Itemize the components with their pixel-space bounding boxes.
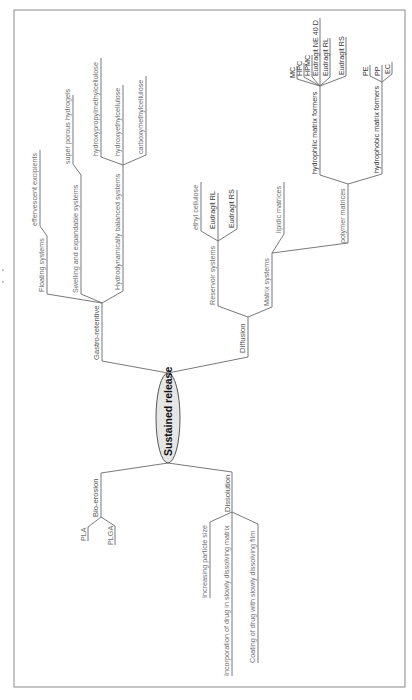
node-hydroxyethylcellulose: hydroxyethylcellulose: [113, 88, 122, 156]
node-eudragit-rs-reservoir: Eudragit RS: [227, 189, 236, 228]
node-super-porous-hydrogels: super porous hydrogels: [63, 88, 72, 164]
node-floating-systems: Floating systems: [37, 238, 46, 292]
node-coating-slowly-dissolving-film: Coating of drug with slowly dissolving f…: [248, 531, 257, 663]
branch-diffusion: Diffusion Reservoir systems ethyl cellul…: [168, 18, 392, 373]
branch-gastro-retentive: Gastro-retentive Floating systems efferv…: [30, 58, 168, 373]
node-eudragit-rl-matrix: Eudragit RL: [321, 38, 330, 76]
node-ethyl-cellulose: ethyl cellulose: [191, 185, 200, 230]
root-node: Sustained release: [156, 367, 180, 463]
node-diffusion: Diffusion: [238, 324, 247, 353]
node-incorporation-slowly-dissolving-matrix: Incorporation of drug in slowly dissolvi…: [222, 525, 231, 676]
node-eudragit-rs-matrix: Eudragit RS: [337, 36, 346, 75]
node-eudragit-ne-40-d: Eudragit NE 40 D: [311, 20, 320, 76]
node-swelling-expandable: Swelling and expandable systems: [71, 184, 80, 293]
node-polymer-matrices: polymer matrices: [338, 188, 347, 243]
branch-bio-erosion: Bio-erosion PLA PLGA: [79, 463, 168, 545]
mind-map-svg: Sustained release Gastro-retentive Float…: [0, 0, 412, 700]
node-lipidic-matrices: lipidic matrices: [274, 185, 283, 233]
node-reservoir-systems: Reservoir systems: [208, 245, 217, 305]
node-ec: EC: [383, 64, 392, 74]
root-label: Sustained release: [162, 367, 174, 456]
margin-mark: [2, 281, 4, 283]
node-gastro-retentive: Gastro-retentive: [92, 306, 101, 360]
node-hydrophobic-matrix-formers: hydrophobic matrix formers: [372, 86, 381, 173]
node-increasing-particle-size: Increasing particle size: [200, 525, 209, 598]
node-hydrodynamically-balanced: Hydrodynamically balanced systems: [113, 173, 122, 290]
node-eudragit-rl-reservoir: Eudragit RL: [208, 191, 217, 229]
node-pp: PP: [373, 66, 382, 76]
margin-mark: [2, 269, 4, 271]
node-plga: PLGA: [106, 526, 115, 545]
node-bio-erosion: Bio-erosion: [91, 479, 100, 517]
node-pla: PLA: [79, 527, 88, 541]
node-matrix-systems: Matrix systems: [262, 258, 271, 306]
node-dissolution: Dissolution: [223, 475, 232, 512]
node-hpmc-long: hydroxypropylmethylcellulose: [91, 62, 100, 156]
branch-dissolution: Dissolution Increasing particle size Inc…: [168, 463, 258, 676]
node-hydrophilic-matrix-formers: hydrophilic matrix formers: [310, 91, 319, 174]
node-pe: PE: [361, 66, 370, 76]
node-effervescent-excipients: effervescent excipients: [30, 153, 39, 226]
node-carboxymethylcellulose: carboxymethylcellulose: [136, 80, 145, 154]
mind-map-canvas: Sustained release Gastro-retentive Float…: [0, 0, 412, 700]
